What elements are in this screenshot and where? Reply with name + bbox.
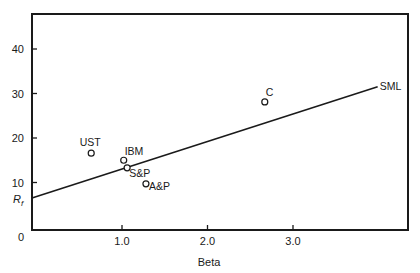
chart-canvas: 010203040 1.02.03.0 SML USTIBMS&PA&PC Be… — [0, 0, 420, 273]
y-tick-label: 10 — [12, 177, 24, 189]
y-tick-label: 40 — [12, 43, 24, 55]
data-point-label: S&P — [129, 167, 150, 179]
y-tick-label: 0 — [18, 231, 24, 243]
rf-main: R — [13, 193, 21, 205]
y-axis-ticks: 010203040 — [12, 43, 37, 243]
data-point-marker — [121, 157, 127, 163]
x-tick-label: 3.0 — [285, 235, 300, 247]
data-point-marker — [88, 150, 94, 156]
plot-border — [32, 14, 408, 230]
x-axis-title: Beta — [198, 256, 222, 268]
data-point-marker — [262, 99, 268, 105]
x-tick-label: 1.0 — [114, 235, 129, 247]
sml-chart: 010203040 1.02.03.0 SML USTIBMS&PA&PC Be… — [0, 0, 420, 273]
data-point-label: UST — [80, 136, 102, 148]
y-tick-label: 20 — [12, 132, 24, 144]
sml-label: SML — [380, 80, 402, 92]
rf-subscript: f — [21, 199, 24, 208]
data-point-label: C — [266, 86, 274, 98]
data-point-label: A&P — [149, 180, 170, 192]
x-tick-label: 2.0 — [200, 235, 215, 247]
x-axis-ticks: 1.02.03.0 — [114, 225, 300, 247]
data-point-label: IBM — [125, 145, 144, 157]
y-tick-label: 30 — [12, 88, 24, 100]
data-points: USTIBMS&PA&PC — [80, 86, 274, 192]
y-axis-title-rf: Rf — [13, 193, 24, 208]
plot-frame — [32, 14, 408, 230]
